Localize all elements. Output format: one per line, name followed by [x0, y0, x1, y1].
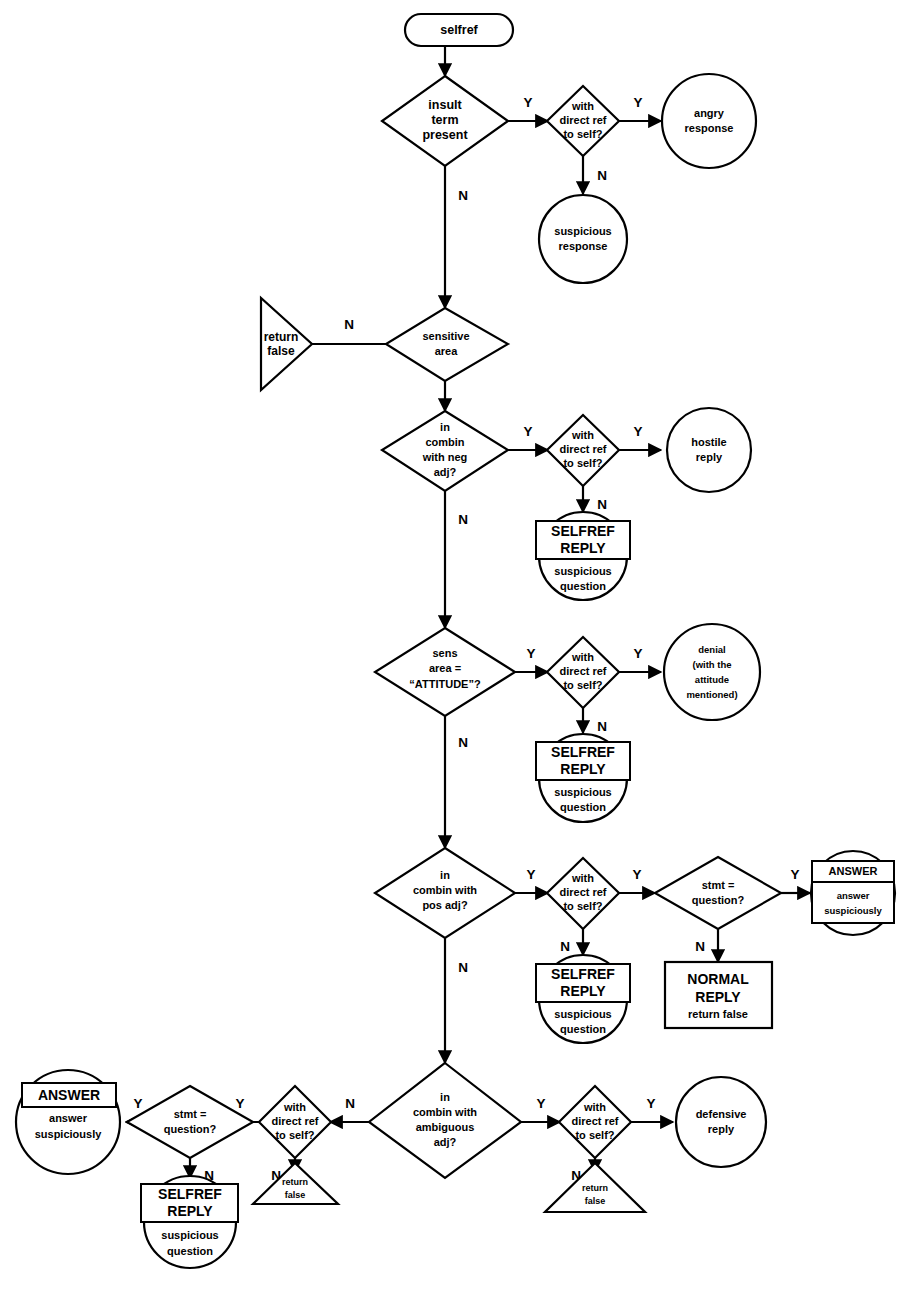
node-combin-ambiguous-adj[interactable]: in combin with ambiguous adj? [369, 1063, 521, 1178]
node-label: sens [432, 647, 457, 659]
node-label: REPLY [560, 540, 606, 556]
edge-label-y: Y [133, 1096, 142, 1111]
edge-label-y: Y [235, 1096, 244, 1111]
edge-label-n: N [560, 939, 570, 954]
node-hostile-reply[interactable]: hostile reply [667, 408, 751, 492]
node-label: with neg [422, 451, 468, 463]
node-answer-suspiciously-1[interactable]: ANSWER answer suspiciously [811, 851, 895, 935]
node-label: in [440, 1091, 450, 1103]
node-return-false-sensitive[interactable]: return false [261, 298, 312, 390]
node-label: “ATTITUDE”? [409, 678, 481, 690]
node-answer-suspiciously-2[interactable]: ANSWER answer suspiciously [16, 1070, 120, 1174]
node-amb-direct-ref-right[interactable]: with direct ref to self? [559, 1086, 631, 1158]
node-label: to self? [563, 457, 602, 469]
node-amb-stmt-question[interactable]: stmt = question? [127, 1086, 253, 1158]
edge-label-y: Y [536, 1096, 545, 1111]
node-label: with [571, 429, 594, 441]
edge-label-n: N [597, 719, 607, 734]
node-attitude-direct-ref[interactable]: with direct ref to self? [547, 637, 619, 708]
node-label: attitude [695, 674, 729, 685]
node-denial-response[interactable]: denial (with the attitude mentioned) [664, 624, 760, 720]
node-label: adj? [434, 1136, 457, 1148]
node-label: response [685, 122, 734, 134]
node-label: direct ref [271, 1115, 318, 1127]
node-suspicious-response[interactable]: suspicious response [539, 195, 627, 283]
node-label: with [571, 651, 594, 663]
node-sens-area-attitude[interactable]: sens area = “ATTITUDE”? [375, 628, 515, 716]
selfref-flowchart: Y Y N N N Y Y N N Y Y N N Y Y Y N N N Y … [0, 0, 897, 1292]
node-label: to self? [275, 1129, 314, 1141]
node-label: ANSWER [38, 1087, 100, 1103]
node-combin-neg-adj[interactable]: in combin with neg adj? [382, 411, 508, 491]
node-label: pos adj? [422, 899, 468, 911]
node-label: response [559, 240, 608, 252]
node-label: suspicious [554, 225, 611, 237]
edge-label-y: Y [523, 95, 532, 110]
edge-label-n: N [345, 1096, 355, 1111]
node-label: SELFREF [551, 523, 615, 539]
node-sensitive-area[interactable]: sensitive area [386, 308, 508, 381]
edge-label-y: Y [633, 95, 642, 110]
node-label: reply [696, 451, 723, 463]
node-selfref-reply-4[interactable]: SELFREF REPLY suspicious question [141, 1176, 238, 1268]
node-label: return [582, 1183, 608, 1193]
node-amb-direct-ref-left[interactable]: with direct ref to self? [259, 1086, 331, 1158]
node-return-false-amb-right[interactable]: return false [545, 1163, 645, 1212]
node-label: area [435, 345, 459, 357]
node-label: denial [698, 644, 725, 655]
flowchart-page: Y Y N N N Y Y N N Y Y N N Y Y Y N N N Y … [0, 0, 897, 1292]
node-label: insult [428, 98, 462, 112]
edge-label-n: N [458, 960, 468, 975]
edge-label-y: Y [526, 646, 535, 661]
node-combin-pos-adj[interactable]: in combin with pos adj? [375, 848, 515, 938]
node-label: suspicious [554, 786, 611, 798]
node-label: return [264, 330, 299, 344]
node-label: SELFREF [158, 1186, 222, 1202]
node-selfref-reply-2[interactable]: SELFREF REPLY suspicious question [536, 734, 630, 822]
node-label: ambiguous [416, 1121, 475, 1133]
node-label: NORMAL [687, 971, 749, 987]
node-insult-direct-ref[interactable]: with direct ref to self? [547, 86, 619, 156]
node-label: with [283, 1101, 306, 1113]
node-label: term [431, 113, 458, 127]
node-label: direct ref [559, 443, 606, 455]
node-label: return [282, 1177, 308, 1187]
edge-label-y: Y [523, 424, 532, 439]
node-label: angry [694, 107, 725, 119]
edge-label-n: N [458, 188, 468, 203]
edge-label-y: Y [633, 646, 642, 661]
node-pos-stmt-question[interactable]: stmt = question? [655, 857, 781, 929]
node-label: SELFREF [551, 966, 615, 982]
node-label: false [285, 1190, 306, 1200]
node-label: with [571, 872, 594, 884]
node-label: defensive [696, 1108, 747, 1120]
node-label: suspicious [554, 1008, 611, 1020]
node-label: question [560, 580, 606, 592]
node-selfref-reply-1[interactable]: SELFREF REPLY suspicious question [536, 512, 630, 600]
node-label: direct ref [559, 114, 606, 126]
node-label: sensitive [422, 330, 469, 342]
node-return-false-amb-left[interactable]: return false [253, 1163, 338, 1204]
node-label: to self? [563, 128, 602, 140]
node-label: REPLY [695, 989, 741, 1005]
node-label: return false [688, 1008, 748, 1020]
node-normal-reply[interactable]: NORMAL REPLY return false [665, 962, 772, 1028]
node-insult-term-present[interactable]: insult term present [382, 76, 508, 166]
node-start-selfref[interactable]: selfref [405, 14, 513, 46]
node-label: answer [49, 1112, 88, 1124]
node-label: REPLY [560, 761, 606, 777]
edge-label-n: N [597, 497, 607, 512]
edge-label-y: Y [526, 867, 535, 882]
node-label: question [560, 1023, 606, 1035]
edge-label-y: Y [633, 424, 642, 439]
node-label: false [585, 1196, 606, 1206]
node-label: direct ref [571, 1115, 618, 1127]
node-angry-response[interactable]: angry response [662, 74, 756, 168]
node-pos-direct-ref[interactable]: with direct ref to self? [547, 858, 619, 929]
node-label: suspicious [161, 1229, 218, 1241]
node-label: question? [164, 1123, 217, 1135]
edge-label-n: N [344, 317, 354, 332]
node-selfref-reply-3[interactable]: SELFREF REPLY suspicious question [536, 955, 630, 1043]
node-neg-direct-ref[interactable]: with direct ref to self? [547, 415, 619, 486]
node-defensive-reply[interactable]: defensive reply [676, 1077, 766, 1167]
